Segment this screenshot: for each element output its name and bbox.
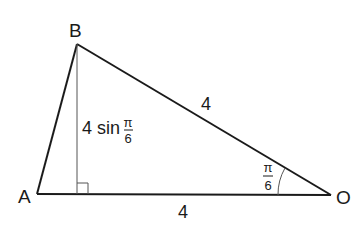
height-label-prefix: 4 sin — [82, 118, 120, 138]
side-AB — [37, 44, 77, 194]
length-label-BO: 4 — [201, 94, 211, 114]
length-label-AO: 4 — [178, 202, 188, 222]
side-AO — [37, 194, 331, 195]
angle-arc-O — [278, 168, 285, 195]
angle-frac-denominator: 6 — [264, 178, 271, 193]
vertex-label-A: A — [18, 186, 31, 207]
angle-frac-numerator: π — [264, 160, 273, 175]
vertex-label-B: B — [69, 20, 82, 41]
vertex-label-O: O — [336, 187, 351, 208]
height-frac-numerator: π — [124, 115, 133, 130]
triangle-diagram: B A O 4 4 4 sin π 6 π 6 — [0, 0, 363, 225]
right-angle-marker — [77, 183, 88, 194]
height-frac-denominator: 6 — [124, 131, 131, 146]
